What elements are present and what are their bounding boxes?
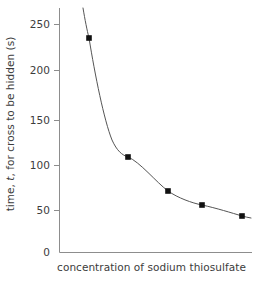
x-axis-title: concentration of sodium thiosulfate: [48, 261, 255, 273]
data-point-1: [86, 35, 92, 41]
data-point-5: [239, 213, 245, 219]
data-series-curve: [83, 8, 251, 218]
data-point-4: [199, 202, 205, 208]
y-axis-ticks: [54, 25, 60, 211]
plot-area: [0, 0, 255, 282]
chart-figure: time, t, for cross to be hidden (s) 250 …: [0, 0, 255, 282]
data-point-3: [165, 188, 171, 194]
data-point-2: [125, 154, 131, 160]
data-point-markers: [86, 35, 245, 219]
